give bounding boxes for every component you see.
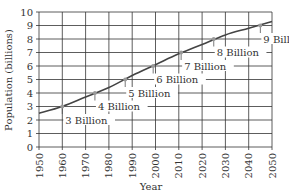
y-tick-label: 4	[27, 88, 33, 99]
milestone-marker	[212, 37, 216, 41]
y-tick-label: 8	[27, 34, 33, 45]
milestone-annotations: 3 Billion4 Billion5 Billion6 Billion7 Bi…	[62, 26, 289, 126]
milestone-label: 9 Billion	[263, 34, 289, 45]
y-tick-label: 5	[27, 74, 33, 85]
y-tick-label: 10	[20, 7, 33, 18]
x-tick-label: 1990	[127, 153, 138, 178]
y-tick-label: 6	[27, 61, 33, 72]
x-tick-label: 1960	[57, 153, 68, 178]
milestone-label: 3 Billion	[65, 115, 108, 126]
x-tick-label: 2040	[243, 153, 254, 178]
milestone-label: 7 Billion	[184, 61, 227, 72]
population-chart: 012345678910 195019601970198019902000201…	[0, 0, 289, 194]
x-tick-label: 1970	[80, 153, 91, 178]
milestone-label: 4 Billion	[98, 101, 141, 112]
milestone-marker	[60, 105, 64, 109]
milestone-label: 6 Billion	[156, 74, 199, 85]
milestone-marker	[123, 78, 127, 82]
y-axis-label: Population (billions)	[3, 29, 14, 131]
x-tick-label: 2050	[267, 153, 278, 178]
y-axis-ticks: 012345678910	[20, 7, 33, 153]
x-tick-label: 1980	[103, 153, 114, 178]
x-axis-label: Year	[139, 181, 163, 192]
x-tick-label: 2030	[220, 153, 231, 178]
x-axis-ticks: 1950196019701980199020002010202020302040…	[34, 153, 278, 178]
y-tick-label: 7	[27, 47, 33, 58]
milestone-marker	[258, 24, 262, 28]
y-tick-label: 9	[27, 20, 33, 31]
x-tick-label: 2000	[150, 153, 161, 178]
x-tick-label: 2020	[197, 153, 208, 178]
milestone-marker	[179, 51, 183, 55]
milestone-label: 8 Billion	[217, 47, 260, 58]
milestone-label: 5 Billion	[128, 88, 171, 99]
y-tick-label: 2	[27, 115, 33, 126]
x-tick-label: 1950	[34, 153, 45, 178]
y-tick-label: 1	[27, 128, 33, 139]
milestone-marker	[151, 64, 155, 68]
grid	[36, 12, 272, 150]
y-tick-label: 3	[27, 101, 33, 112]
milestone-marker	[93, 91, 97, 95]
y-tick-label: 0	[27, 142, 33, 153]
x-tick-label: 2010	[173, 153, 184, 178]
